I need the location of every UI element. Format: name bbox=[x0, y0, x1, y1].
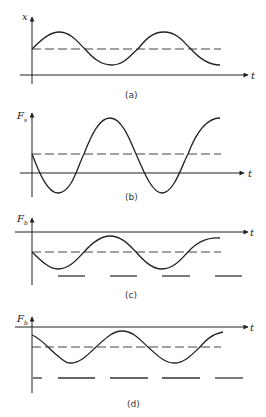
panel-a: x t (a) bbox=[20, 11, 256, 100]
y-axis-subscript: b bbox=[24, 219, 28, 226]
panel-b: F s t (b) bbox=[16, 110, 253, 202]
spring-force-curve bbox=[32, 118, 220, 193]
panel-caption: (a) bbox=[125, 90, 138, 100]
x-axis-label: t bbox=[250, 322, 255, 333]
panel-caption: (c) bbox=[125, 290, 137, 300]
x-axis-label: t bbox=[251, 70, 256, 81]
x-axis-label: t bbox=[250, 227, 255, 238]
panel-caption: (b) bbox=[125, 192, 138, 202]
y-axis-subscript: b bbox=[24, 319, 28, 326]
panel-d: F b t (d) bbox=[15, 313, 255, 409]
y-axis-label: x bbox=[22, 11, 28, 22]
panel-caption: (d) bbox=[127, 399, 140, 409]
panel-c: F b t (c) bbox=[15, 213, 255, 300]
figure: x t (a) F s t (b) F b t (c) bbox=[0, 0, 266, 417]
y-axis-subscript: s bbox=[24, 116, 27, 123]
x-axis-label: t bbox=[248, 168, 253, 179]
